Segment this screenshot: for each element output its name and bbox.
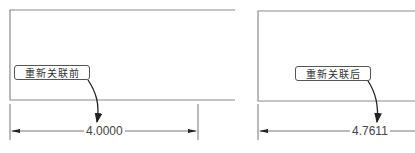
after-dimension-value: 4.7611 (350, 124, 390, 138)
after-label: 重新关联后 (295, 66, 371, 81)
before-label: 重新关联前 (14, 65, 90, 80)
before-dimension-value: 4.0000 (84, 124, 125, 138)
